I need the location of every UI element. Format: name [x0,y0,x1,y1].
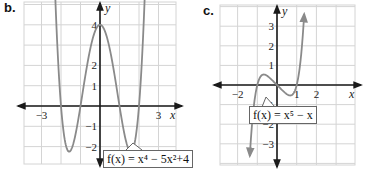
x-axis-label: x [348,87,355,101]
function-label-c: f(x) = x⁵ − x [249,106,317,124]
y-tick-label: 3 [269,20,275,32]
y-tick-label: 2 [269,40,275,52]
y-tick-label: 1 [269,59,275,71]
chart-c: xy−212321−1−2−3 [0,0,369,171]
y-tick-label: −3 [262,138,274,150]
x-tick-label: −2 [232,88,244,100]
x-tick-label: 2 [314,88,320,100]
function-label-b: f(x) = x⁴ − 5x²+4 [103,150,193,168]
y-axis-label: y [281,4,288,18]
